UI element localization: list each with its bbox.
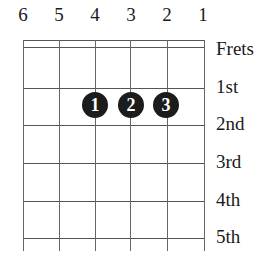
fret-label: 5th — [216, 226, 240, 248]
string-line — [23, 40, 24, 251]
fret-line — [23, 201, 205, 202]
fret-line — [23, 163, 205, 164]
fret-label: 1st — [216, 76, 238, 98]
string-line — [95, 40, 96, 251]
fret-label: 4th — [216, 189, 240, 211]
fret-label: 3rd — [216, 151, 241, 173]
string-number: 6 — [13, 4, 33, 26]
string-line — [167, 40, 168, 251]
fret-line — [23, 125, 205, 126]
frets-header: Frets — [216, 38, 254, 60]
string-number: 1 — [193, 4, 213, 26]
fret-line — [23, 238, 205, 239]
fret-label: 2nd — [216, 113, 245, 135]
string-line — [130, 40, 131, 251]
nut-line — [23, 40, 205, 41]
finger-dot: 3 — [153, 92, 179, 118]
finger-dot: 2 — [118, 92, 144, 118]
fret-line — [23, 88, 205, 89]
nut-line — [23, 47, 205, 48]
string-number: 3 — [121, 4, 141, 26]
string-number: 2 — [157, 4, 177, 26]
finger-dot: 1 — [82, 92, 108, 118]
string-line — [59, 40, 60, 251]
string-number: 5 — [49, 4, 69, 26]
string-line — [204, 40, 205, 251]
string-number: 4 — [85, 4, 105, 26]
